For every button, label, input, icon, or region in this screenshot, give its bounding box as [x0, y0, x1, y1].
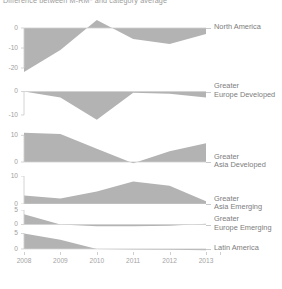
panel-label: North America	[214, 23, 261, 32]
y-tick-label: -20	[0, 65, 18, 72]
y-axis	[20, 176, 25, 208]
area-series	[24, 182, 206, 204]
chart-title: Difference between M-RM* and category av…	[3, 0, 279, 5]
panel-plot	[24, 176, 206, 204]
panel-greater-europe-developed: 0-10GreaterEurope Developed	[0, 88, 282, 122]
panel-plot	[24, 88, 206, 122]
x-tick-label: 2013	[199, 257, 214, 264]
panel-label: GreaterAsia Developed	[214, 153, 266, 170]
x-axis: 200820092010201120122013	[24, 252, 206, 270]
panel-label-leader	[206, 249, 211, 250]
panel-label-leader	[206, 204, 211, 205]
panel-plot	[24, 16, 206, 76]
panel-greater-asia-emerging: 100GreaterAsia Emerging	[0, 176, 282, 204]
panel-greater-asia-developed: 100GreaterAsia Developed	[0, 130, 282, 166]
y-tick-label: 0	[0, 246, 18, 253]
x-tick-label: 2009	[53, 257, 68, 264]
y-tick-label: 0	[0, 221, 18, 228]
x-tick-mark	[206, 252, 207, 255]
y-axis	[20, 130, 25, 170]
y-tick-label: 0	[0, 25, 18, 32]
x-tick-mark	[60, 252, 61, 255]
x-tick-mark	[170, 252, 171, 255]
y-tick-label: 0	[0, 159, 18, 166]
panel-label: GreaterEurope Emerging	[214, 215, 272, 232]
y-tick-label: -10	[0, 112, 18, 119]
x-tick-mark	[97, 252, 98, 255]
area-series	[24, 234, 206, 251]
y-tick-label: 10	[0, 132, 18, 139]
y-axis	[20, 210, 25, 232]
y-axis	[20, 88, 25, 126]
panel-north-america: 0-10-20North America	[0, 16, 282, 76]
y-axis	[20, 16, 25, 80]
x-tick-mark	[24, 252, 25, 255]
area-series	[24, 133, 206, 164]
panel-plot	[24, 130, 206, 166]
panel-label-leader	[206, 92, 211, 93]
panel-latin-america: 50Latin America	[0, 232, 282, 252]
x-tick-label: 2011	[126, 257, 140, 264]
y-tick-label: 5	[0, 230, 18, 237]
x-tick-label: 2010	[89, 257, 104, 264]
y-tick-label: 10	[0, 173, 18, 180]
panel-greater-europe-emerging: 50GreaterEurope Emerging	[0, 210, 282, 228]
panel-label-leader	[206, 225, 211, 226]
x-tick-mark	[133, 252, 134, 255]
panel-plot	[24, 232, 206, 252]
small-multiples-area-chart: Difference between M-RM* and category av…	[0, 0, 282, 289]
panel-label: GreaterEurope Developed	[214, 82, 275, 99]
y-tick-label: 0	[0, 88, 18, 95]
x-tick-label: 2008	[17, 257, 32, 264]
x-tick-mark	[220, 252, 221, 255]
panel-label-line: North America	[214, 23, 261, 32]
panel-label-line: Europe Developed	[214, 91, 275, 100]
x-tick-label: 2012	[162, 257, 177, 264]
y-tick-label: -10	[0, 45, 18, 52]
y-tick-label: 5	[0, 207, 18, 214]
panel-label-leader	[206, 28, 211, 29]
area-series	[24, 92, 206, 120]
panel-label-leader	[206, 162, 211, 163]
panel-label-line: Asia Developed	[214, 161, 266, 170]
panel-plot	[24, 210, 206, 228]
